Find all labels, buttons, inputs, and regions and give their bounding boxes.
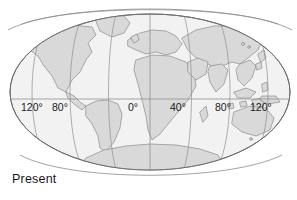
- longitude-label-0: 0°: [128, 101, 138, 113]
- figure-caption: Present: [12, 172, 56, 186]
- land-island-dot-b: [248, 46, 251, 49]
- world-map-svg: 120° 80° 0° 40° 80° 120°: [0, 0, 297, 200]
- world-map-figure: 120° 80° 0° 40° 80° 120° Present: [0, 0, 297, 200]
- longitude-label-120w: 120°: [21, 101, 43, 113]
- longitude-label-80e: 80°: [215, 101, 231, 113]
- land-philippines: [262, 82, 268, 92]
- land-island-dot-a: [241, 42, 244, 45]
- longitude-label-40e: 40°: [170, 101, 186, 113]
- land-island-dot-c: [250, 138, 253, 141]
- land-small-island-a: [240, 101, 247, 107]
- longitude-label-80w: 80°: [52, 101, 68, 113]
- land-new-zealand: [282, 126, 290, 138]
- longitude-label-120e: 120°: [250, 101, 272, 113]
